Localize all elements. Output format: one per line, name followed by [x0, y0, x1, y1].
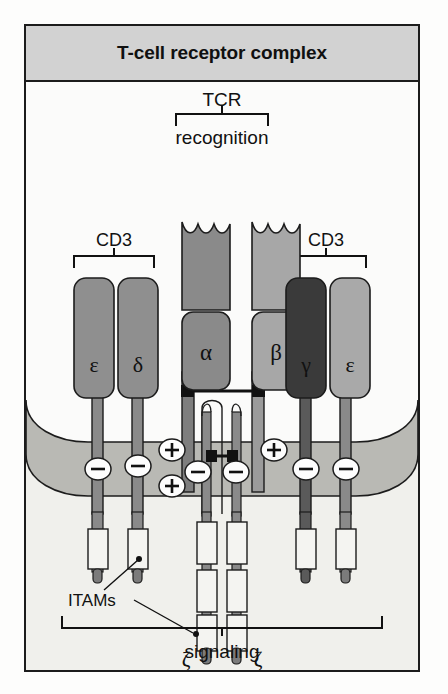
- recognition-label: recognition: [176, 127, 269, 148]
- charge-alpha-pos2: [159, 475, 185, 497]
- itam-box: [336, 529, 356, 569]
- charge-alpha-pos1: [159, 439, 185, 461]
- cd3-delta-symbol: δ: [133, 352, 143, 377]
- charge-beta-pos: [261, 439, 287, 461]
- tcr-alpha-variable-domain: [182, 222, 230, 310]
- itam-box: [197, 522, 217, 564]
- cd3-epsilon-right-domain: [330, 278, 370, 398]
- cd3-right-label: CD3: [308, 230, 344, 250]
- cd3-gamma-tm: [300, 382, 311, 514]
- page-title: T-cell receptor complex: [117, 42, 327, 64]
- cd3-delta-tm: [132, 382, 143, 514]
- cd3-gamma-domain: [286, 278, 326, 398]
- zeta-dimer: [202, 401, 241, 517]
- diagram-canvas: TCR recognition CD3 CD3: [26, 82, 418, 670]
- charge-gamma: [293, 458, 319, 480]
- itam-box: [128, 529, 148, 569]
- charge-zeta-left: [185, 461, 211, 483]
- charge-delta: [125, 455, 151, 477]
- itam-box: [227, 522, 247, 564]
- cd3-epsilon-left-symbol: ε: [89, 352, 98, 377]
- signaling-bracket-group: signaling: [26, 608, 418, 664]
- cd3-epsilon-right-tm: [340, 382, 351, 514]
- cd3-gamma-symbol: γ: [300, 352, 311, 377]
- cd3-epsilon-left-tm: [92, 382, 103, 514]
- charge-zeta-right: [223, 461, 249, 483]
- tcr-alpha-symbol: α: [200, 340, 212, 365]
- tcr-beta-symbol: β: [270, 340, 282, 365]
- cd3-delta-domain: [118, 278, 158, 398]
- signaling-label: signaling: [185, 641, 260, 662]
- cd3-epsilon-left-domain: [74, 278, 114, 398]
- itam-box: [197, 570, 217, 612]
- cd3-left-label: CD3: [96, 230, 132, 250]
- signaling-bracket: [62, 616, 382, 636]
- itam-box: [88, 529, 108, 569]
- itam-box: [296, 529, 316, 569]
- itams-leader-dot-cd3: [136, 556, 142, 562]
- charge-eps-right: [333, 458, 359, 480]
- charge-eps-left: [85, 458, 111, 480]
- itam-box: [227, 570, 247, 612]
- cd3-epsilon-right-symbol: ε: [345, 352, 354, 377]
- figure-title-bar: T-cell receptor complex: [26, 26, 418, 82]
- figure-panel: T-cell receptor complex TCR recognition …: [24, 24, 420, 672]
